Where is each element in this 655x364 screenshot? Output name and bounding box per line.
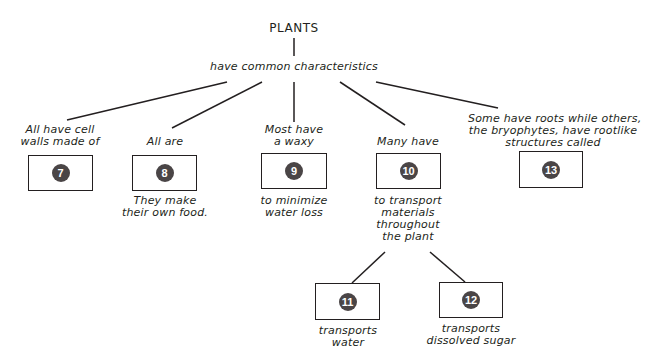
root-link-text: have common characteristics (194, 61, 394, 73)
answer-box-11[interactable]: 11 (315, 283, 380, 320)
answer-box-9[interactable]: 9 (261, 153, 327, 189)
answer-box-7[interactable]: 7 (28, 155, 93, 191)
branch-label-rootlike: Some have roots while others, the bryoph… (468, 113, 638, 149)
answer-box-10[interactable]: 10 (376, 153, 441, 189)
branch-label-cell-walls: All have cell walls made of (10, 124, 110, 148)
number-badge: 7 (52, 164, 70, 182)
branch-label-all-are: All are (125, 136, 205, 148)
number-badge: 12 (462, 291, 480, 309)
number-badge: 10 (400, 162, 418, 180)
branch-label-waxy: Most have a waxy (244, 124, 344, 148)
branch-label-many-have: Many have (368, 136, 448, 148)
sub-note-sugar: transports dissolved sugar (416, 323, 526, 347)
number-badge: 9 (285, 162, 303, 180)
branch-note-water-loss: to minimize water loss (244, 195, 344, 219)
number-badge: 13 (542, 161, 560, 179)
number-badge: 11 (339, 293, 357, 311)
branch-note-own-food: They make their own food. (115, 195, 215, 219)
sub-note-water: transports water (298, 325, 398, 349)
answer-box-12[interactable]: 12 (439, 282, 503, 318)
number-badge: 8 (156, 164, 174, 182)
root-title: PLANTS (264, 22, 324, 34)
branch-note-transport: to transport materials throughout the pl… (358, 195, 458, 243)
answer-box-8[interactable]: 8 (132, 155, 197, 191)
answer-box-13[interactable]: 13 (519, 151, 583, 188)
